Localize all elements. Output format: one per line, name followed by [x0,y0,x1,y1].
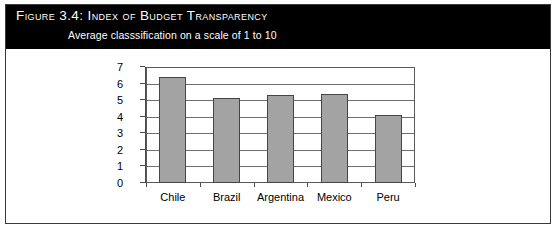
chart-x-label-argentina: Argentina [257,191,304,203]
chart-y-tick-mark [140,99,145,100]
figure-title: Figure 3.4: Index of Budget Transparency [16,8,268,23]
chart-bar [213,98,240,183]
chart-y-tick-label: 7 [117,62,123,73]
figure-root: Figure 3.4: Index of Budget Transparency… [0,0,556,229]
chart-x-tick-mark [200,183,201,187]
figure-frame: Figure 3.4: Index of Budget Transparency… [5,4,551,224]
chart-x-tick-mark [254,183,255,187]
chart-y-tick-label: 5 [117,95,123,106]
chart-x-label-peru: Peru [376,191,399,203]
chart-y-axis [145,67,146,183]
chart-y-tick-label: 1 [117,161,123,172]
chart-y-tick-label: 0 [117,178,123,189]
chart-y-tick-mark [140,66,145,67]
chart-gridline [147,84,414,85]
chart-x-tick-mark [415,183,416,187]
chart-x-label-brazil: Brazil [213,191,241,203]
chart-y-tick-label: 3 [117,128,123,139]
chart-x-tick-mark [307,183,308,187]
chart-bar [375,115,402,183]
chart-x-tick-mark [361,183,362,187]
chart-y-tick-mark [140,132,145,133]
chart-x-label-mexico: Mexico [317,191,352,203]
chart-y-tick-mark [140,165,145,166]
chart-y-tick-mark [140,149,145,150]
chart-y-tick-mark [140,83,145,84]
figure-subtitle: Average classsification on a scale of 1 … [68,29,277,41]
chart-bar [267,95,294,183]
chart-x-tick-mark [146,183,147,187]
chart-y-tick-mark [140,182,145,183]
chart-y-tick-mark [140,116,145,117]
chart-x-label-chile: Chile [160,191,185,203]
chart-bar [321,94,348,183]
figure-header-band: Figure 3.4: Index of Budget Transparency… [6,5,550,49]
chart-bar [159,77,186,183]
chart-y-tick-label: 6 [117,78,123,89]
chart-y-tick-label: 4 [117,111,123,122]
chart-plot-wrapper: 01234567 ChileBrazilArgentinaMexicoPeru [6,49,550,224]
chart-y-tick-label: 2 [117,144,123,155]
